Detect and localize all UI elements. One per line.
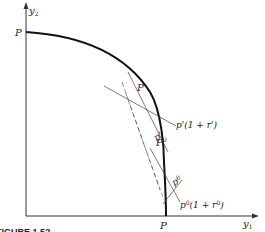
x-axis-arrow-icon [252, 214, 259, 219]
p-prime-one-plus-r-label: p'(1 + r') [176, 120, 218, 130]
y-axis [24, 2, 29, 216]
top-intercept-label: P [14, 27, 22, 38]
p-zero-one-plus-r-label: p0(1 + r0) [180, 199, 224, 210]
bottom-intercept-label: P [159, 220, 167, 231]
y-axis-label: y2 [28, 5, 39, 17]
figure-caption: FIGURE 1.5? [0, 227, 51, 232]
production-possibility-diagram: y2 y1 P P P' P0 p'(1 + r') p' p' p0 p0(1… [0, 0, 265, 232]
y-axis-arrow-icon [24, 2, 29, 9]
frontier-curve [26, 32, 166, 216]
x-axis [26, 214, 259, 219]
point-p-prime-label: P' [136, 82, 146, 93]
x-axis-label: y1 [242, 218, 252, 230]
